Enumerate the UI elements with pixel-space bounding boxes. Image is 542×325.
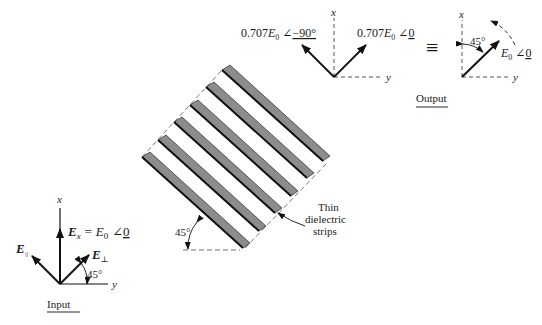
rotation-arrow-icon [491, 21, 515, 45]
callout-line-1: Thin [318, 201, 339, 213]
callout-line-2: dielectric [305, 213, 346, 225]
output-y-axis-label: y [512, 71, 518, 83]
grating-angle-label: 45° [175, 226, 190, 238]
out-comp-y-axis-label: y [385, 71, 391, 83]
out-comp-left-label: 0.707E0∠−90° [241, 26, 316, 42]
input-panel: x y Ex= E0∠0 E|| E⊥ 45° Input [15, 193, 130, 312]
output-angle-label: 45° [470, 35, 485, 47]
callout-leader-icon [278, 213, 305, 226]
e-perp-label: E⊥ [91, 247, 108, 264]
input-caption: Input [47, 298, 70, 310]
callout-line-3: strips [313, 225, 337, 237]
e-parallel-label: E|| [15, 241, 29, 258]
output-caption: Output [416, 92, 447, 104]
diagram-canvas: x y Ex= E0∠0 E|| E⊥ 45° Input [0, 0, 542, 325]
input-x-axis-label: x [56, 193, 62, 205]
out-comp-x-axis-label: x [330, 6, 336, 18]
e-parallel-arrow-icon [32, 256, 60, 284]
output-field-label: E0∠0 [500, 46, 531, 62]
input-y-axis-label: y [111, 278, 117, 290]
dielectric-grating: 45° Thin dielectric strips [142, 65, 346, 250]
output-components-panel: x y 0.707E0∠−90° 0.707E0∠0 [241, 6, 414, 83]
input-angle-label: 45° [87, 268, 102, 280]
ex-label: Ex= E0∠0 [67, 224, 130, 241]
out-comp-left-arrow-icon [302, 45, 334, 77]
out-comp-right-label: 0.707E0∠0 [357, 26, 414, 42]
output-x-axis-label: x [458, 8, 464, 20]
out-comp-right-arrow-icon [334, 45, 366, 77]
equivalence-symbol: ≡ [426, 35, 438, 60]
